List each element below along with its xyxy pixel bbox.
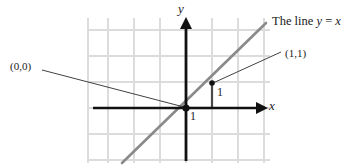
y-axis-arrowhead: [180, 17, 192, 29]
y-axis-label: y: [178, 2, 184, 15]
coordinate-plane-figure: y x (0,0) (1,1) 1 1 The line y = x: [0, 0, 352, 167]
vertical-unit-label: 1: [217, 86, 223, 98]
line-equation-caption: The line y = x: [272, 15, 341, 28]
unit-point-label: (1,1): [285, 48, 306, 59]
line-caption-prefix: The line: [272, 14, 316, 28]
origin-point-label: (0,0): [10, 61, 31, 72]
horizontal-unit-label: 1: [190, 110, 196, 122]
unit-point-leader-line: [213, 52, 281, 83]
origin-leader-line: [42, 70, 184, 107]
line-caption-equals: =: [322, 14, 335, 28]
x-axis-label: x: [269, 99, 275, 112]
line-caption-variable-x: x: [335, 14, 341, 28]
grid: [88, 18, 270, 163]
x-axis-arrowhead: [256, 102, 268, 114]
unit-point-marker: [209, 80, 215, 86]
origin-point-marker: [182, 104, 189, 111]
line-y-equals-x: [122, 23, 266, 163]
